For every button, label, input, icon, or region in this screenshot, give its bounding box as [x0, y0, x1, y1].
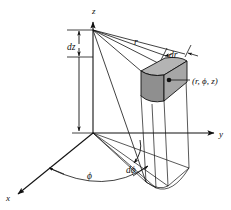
ray-r — [93, 30, 169, 57]
point-coordinate-label: (r, ϕ, z) — [192, 76, 218, 86]
figure-container: z y x dz r dr dϕ ϕ (r, ϕ, z) — [0, 0, 231, 210]
base-ray-right2 — [93, 133, 189, 168]
y-axis-label: y — [218, 129, 223, 139]
projection-line-3 — [164, 100, 168, 186]
base-edge-far — [168, 168, 189, 186]
phi-arrow-left — [49, 168, 64, 174]
base-inner-arc — [146, 182, 168, 188]
projection-line-4 — [186, 80, 189, 168]
base-outer-arc — [156, 168, 189, 189]
dr-label: dr — [169, 50, 178, 60]
r-label: r — [134, 37, 138, 47]
dz-label: dz — [67, 42, 76, 52]
x-axis-label: x — [5, 193, 10, 203]
phi-label: ϕ — [87, 171, 92, 181]
x-axis-line — [18, 133, 93, 194]
dphi-label: dϕ — [126, 165, 136, 175]
axis-group — [18, 22, 214, 194]
base-ray-left2 — [93, 133, 156, 188]
dr-tick-right — [185, 45, 191, 57]
block-front-face — [141, 71, 164, 102]
dr-arrow-right — [188, 53, 198, 56]
base-ray-right — [93, 133, 168, 186]
base-sector-group — [93, 133, 189, 189]
cylindrical-coordinates-diagram: z y x dz r dr dϕ ϕ (r, ϕ, z) — [0, 0, 231, 210]
z-axis-label: z — [91, 6, 96, 16]
